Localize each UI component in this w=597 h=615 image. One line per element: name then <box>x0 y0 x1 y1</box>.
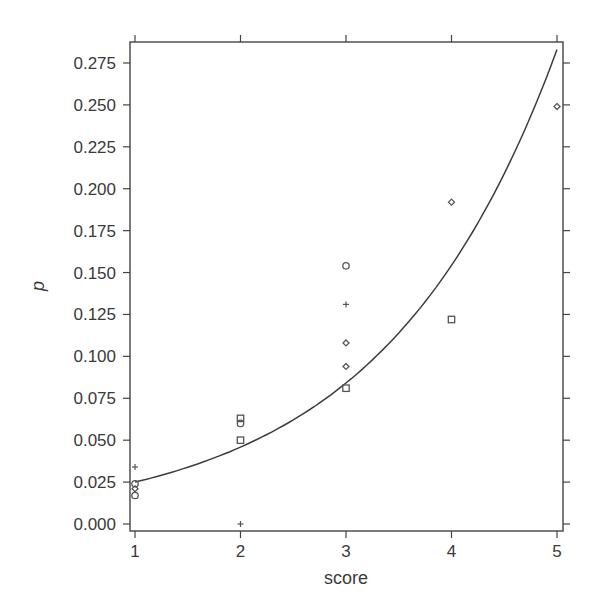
y-tick-label: 0.025 <box>73 473 116 492</box>
x-tick-label: 4 <box>447 542 456 561</box>
y-tick-label: 0.125 <box>73 305 116 324</box>
plus-marker <box>343 301 349 307</box>
x-tick-label: 3 <box>341 542 350 561</box>
scatter-plot: 12345 0.0000.0250.0500.0750.1000.1250.15… <box>0 0 597 615</box>
circle-marker <box>132 492 138 498</box>
y-tick-label: 0.200 <box>73 180 116 199</box>
y-tick-label: 0.175 <box>73 222 116 241</box>
y-axis-title: p <box>28 281 48 292</box>
x-axis-title: score <box>324 568 368 588</box>
plus-marker <box>132 464 138 470</box>
circle-marker <box>343 263 349 269</box>
y-tick-label: 0.075 <box>73 389 116 408</box>
diamond-marker <box>343 363 349 369</box>
y-tick-label: 0.250 <box>73 96 116 115</box>
x-tick-label: 1 <box>130 542 139 561</box>
x-tick-label: 2 <box>236 542 245 561</box>
diamond-marker <box>554 104 560 110</box>
diamond-marker <box>343 340 349 346</box>
x-axis: 12345 <box>130 35 561 561</box>
y-tick-label: 0.050 <box>73 431 116 450</box>
y-axis: 0.0000.0250.0500.0750.1000.1250.1500.175… <box>73 54 570 534</box>
plot-frame <box>130 42 563 531</box>
y-tick-label: 0.150 <box>73 264 116 283</box>
y-tick-label: 0.000 <box>73 515 116 534</box>
data-points <box>132 104 560 527</box>
fitted-curve-line <box>135 50 557 483</box>
square-marker <box>343 385 349 391</box>
plus-marker <box>238 521 244 527</box>
y-tick-label: 0.100 <box>73 347 116 366</box>
y-tick-label: 0.275 <box>73 54 116 73</box>
y-tick-label: 0.225 <box>73 138 116 157</box>
square-marker <box>237 437 243 443</box>
square-marker <box>448 316 454 322</box>
diamond-marker <box>449 199 455 205</box>
fitted-curve <box>135 50 557 483</box>
x-tick-label: 5 <box>552 542 561 561</box>
